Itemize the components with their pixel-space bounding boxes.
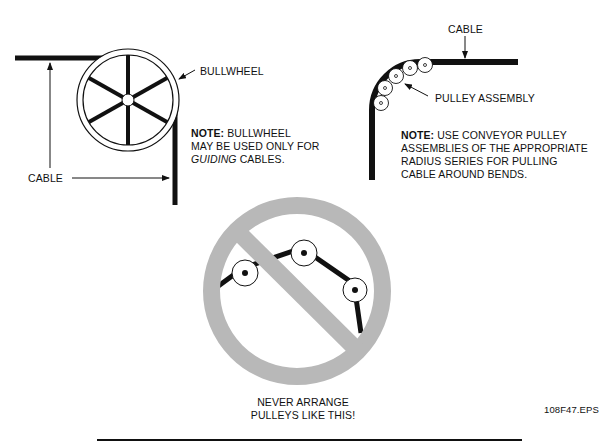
cable-label-left: CABLE xyxy=(28,172,63,185)
bullwheel-note-line1: NOTE: BULLWHEEL xyxy=(191,127,319,140)
bullwheel-note-line3: GUIDING CABLES. xyxy=(191,153,319,166)
note-text: BULLWHEEL xyxy=(224,127,291,139)
diagram-artwork xyxy=(0,0,611,444)
prohibition-caption-line2: PULLEYS LIKE THIS! xyxy=(247,409,359,422)
pulley-note-line3: RADIUS SERIES FOR PULLING xyxy=(401,155,588,168)
pulley-note-line1: NOTE: USE CONVEYOR PULLEY xyxy=(401,129,588,142)
pulley-note: NOTE: USE CONVEYOR PULLEY ASSEMBLIES OF … xyxy=(401,129,588,181)
pulley-note-line2: ASSEMBLIES OF THE APPROPRIATE xyxy=(401,142,588,155)
note-emphasis: GUIDING xyxy=(191,153,237,165)
pulley-note-line4: CABLE AROUND BENDS. xyxy=(401,168,588,181)
note-text: CABLES. xyxy=(237,153,285,165)
bullwheel-note: NOTE: BULLWHEEL MAY BE USED ONLY FOR GUI… xyxy=(191,127,319,166)
pulley-assembly-callout-arrow xyxy=(405,84,428,96)
prohibition-caption-line1: NEVER ARRANGE xyxy=(247,396,359,409)
prohibition-caption: NEVER ARRANGE PULLEYS LIKE THIS! xyxy=(247,396,359,422)
cable-label-right: CABLE xyxy=(448,23,483,36)
note-prefix: NOTE: xyxy=(191,127,224,139)
note-prefix: NOTE: xyxy=(401,129,434,141)
bullwheel-hub xyxy=(122,94,134,106)
bullwheel-note-line2: MAY BE USED ONLY FOR xyxy=(191,140,319,153)
prohibition-diagram xyxy=(212,206,383,377)
note-text: USE CONVEYOR PULLEY xyxy=(434,129,567,141)
bullwheel-callout-label: BULLWHEEL xyxy=(200,65,264,78)
figure-id: 108F47.EPS xyxy=(544,403,599,416)
bullwheel-callout-arrow xyxy=(179,70,195,79)
pulley-assembly-callout-label: PULLEY ASSEMBLY xyxy=(435,92,535,105)
